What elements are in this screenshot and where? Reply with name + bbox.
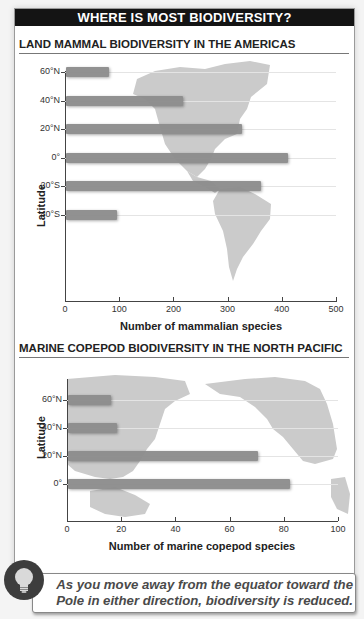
y-tick bbox=[63, 428, 67, 429]
chart2-y-label: Latitude bbox=[35, 416, 47, 459]
x-tick bbox=[121, 517, 122, 521]
lightbulb-icon bbox=[4, 560, 44, 600]
x-tick-label: 40 bbox=[170, 524, 180, 534]
callout-text: As you move away from the equator toward… bbox=[47, 577, 353, 609]
x-tick-label: 0 bbox=[64, 524, 69, 534]
x-tick bbox=[67, 517, 68, 521]
chart2-x-axis bbox=[67, 521, 338, 522]
y-tick-label: 0° bbox=[28, 478, 62, 488]
x-tick bbox=[284, 517, 285, 521]
x-tick bbox=[338, 517, 339, 521]
y-tick bbox=[63, 456, 67, 457]
copepod-chart: 60°N40°N20°N0° 020406080100 Latitude Num… bbox=[15, 9, 354, 569]
infographic-frame: WHERE IS MOST BIODIVERSITY? LAND MAMMAL … bbox=[14, 8, 355, 578]
x-tick-label: 80 bbox=[279, 524, 289, 534]
x-tick bbox=[230, 517, 231, 521]
takeaway-callout: As you move away from the equator toward… bbox=[32, 573, 356, 613]
y-tick bbox=[63, 484, 67, 485]
x-tick bbox=[175, 517, 176, 521]
chart2-x-label: Number of marine copepod species bbox=[109, 540, 295, 552]
x-tick-label: 20 bbox=[116, 524, 126, 534]
data-bar bbox=[68, 451, 258, 461]
x-tick-label: 100 bbox=[330, 524, 345, 534]
lightbulb-glyph bbox=[4, 560, 44, 600]
x-tick-label: 60 bbox=[225, 524, 235, 534]
y-tick bbox=[63, 400, 67, 401]
y-tick-label: 60°N bbox=[28, 394, 62, 404]
data-bar bbox=[68, 423, 117, 433]
data-bar bbox=[68, 395, 111, 405]
data-bar bbox=[68, 479, 290, 489]
